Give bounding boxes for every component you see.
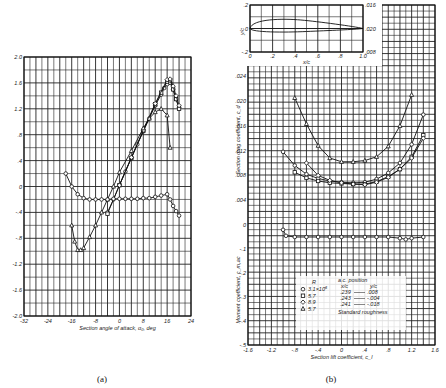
inset-x-label: x/c <box>302 59 310 65</box>
y-tick-label: .4 <box>17 158 22 164</box>
legend-entry: 3.1×10⁶ <box>308 286 328 292</box>
legend-ac-xc: .241 <box>340 301 351 307</box>
inset-x-tick: .4 <box>293 53 298 59</box>
drag-tick-label: .024 <box>235 73 246 79</box>
x-tick-label: 8 <box>142 318 146 324</box>
caption-b: (b) <box>326 374 337 384</box>
x-axis-label: Section angle of attack, α₀, deg <box>79 325 156 331</box>
legend-ac-yc: -.018 <box>367 301 380 307</box>
airfoil-inset: 0.2.4.6.81.0.20-.2.016.020.008x/cy/c <box>230 0 382 66</box>
chart-a: -2.0-1.6-1.2-.8-.40.4.81.21.62.0-32-24-1… <box>13 54 195 384</box>
series-a-3 <box>70 107 172 252</box>
x-tick-label: -1.2 <box>267 347 276 353</box>
x-tick-label: 0 <box>340 347 344 353</box>
x-tick-label: -24 <box>44 318 52 324</box>
x-tick-label: 0 <box>118 318 122 324</box>
inset-right-tick: .016 <box>365 2 377 8</box>
chart-b: 0.2.4.6.81.0.20-.2.016.020.008x/cy/c.004… <box>230 0 440 384</box>
x-tick-label: -.4 <box>315 347 321 353</box>
x-tick-label: .8 <box>386 347 392 353</box>
y-tick-label: 2.0 <box>13 54 23 60</box>
legend-note: Standard roughness <box>338 309 388 315</box>
x-tick-label: -1.6 <box>243 347 253 353</box>
inset-x-tick: .2 <box>270 53 275 59</box>
x-tick-label: 16 <box>164 318 171 324</box>
inset-right-tick: .008 <box>365 49 377 55</box>
inset-y-label: y/c <box>239 28 245 36</box>
legend-entry: 5.7 <box>308 306 317 312</box>
x-tick-label: -16 <box>68 318 77 324</box>
drag-tick-label: .004 <box>235 197 246 203</box>
moment-tick-label: 0 <box>243 222 247 228</box>
y-tick-label: .8 <box>17 132 23 138</box>
y-tick-label: 0 <box>19 184 23 190</box>
x-axis-label: Section lift coefficient, c_l <box>311 354 374 360</box>
inset-right-tick: .020 <box>365 26 377 32</box>
moment-tick-label: -.1 <box>240 246 246 252</box>
caption-a: (a) <box>97 374 107 384</box>
legend-r-header: R <box>312 279 316 285</box>
y-tick-label: 1.6 <box>14 80 23 86</box>
inset-y-tick: -.2 <box>242 49 248 55</box>
y-tick-label: -.8 <box>16 235 23 241</box>
y-tick-label: 1.2 <box>14 106 22 112</box>
x-tick-label: .4 <box>363 347 368 353</box>
y-tick-label: -1.6 <box>13 287 23 293</box>
x-tick-label: 1.2 <box>408 347 416 353</box>
y-tick-label: -.4 <box>16 209 22 215</box>
inset-y-tick: .2 <box>243 2 248 8</box>
figure: -2.0-1.6-1.2-.8-.40.4.81.21.62.0-32-24-1… <box>0 0 446 388</box>
legend-entry: 5.7 <box>308 293 317 299</box>
drag-axis-label: Section drag coefficient, c_d <box>235 105 241 175</box>
y-tick-label: -1.2 <box>13 261 22 267</box>
chart-a-grid <box>24 57 191 316</box>
x-tick-label: -.8 <box>292 347 299 353</box>
x-tick-label: 1.6 <box>431 347 440 353</box>
x-tick-label: -8 <box>93 318 99 324</box>
legend-entry: 8.9 <box>308 299 316 305</box>
x-tick-label: -32 <box>20 318 28 324</box>
moment-axis-label: Moment coefficient, c_m,ac <box>235 256 241 323</box>
drag-tick-label: .020 <box>235 98 247 104</box>
legend: R3.1×10⁶5.78.95.7a.c. positionx/cy/c.239… <box>296 276 406 330</box>
x-tick-label: 24 <box>187 318 194 324</box>
